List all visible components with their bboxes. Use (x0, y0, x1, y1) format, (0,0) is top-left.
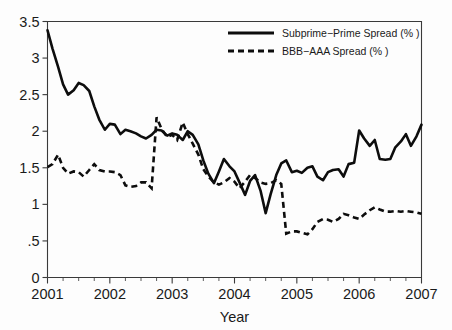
y-tick-label: 3 (31, 50, 39, 66)
y-tick-label: 2.5 (19, 87, 39, 103)
y-tick-label: 2 (31, 123, 39, 139)
legend-label: Subprime−Prime Spread (% ) (282, 27, 419, 39)
y-tick-label: 1.5 (19, 160, 39, 176)
legend-label: BBB−AAA Spread (% ) (282, 45, 389, 57)
x-axis-ticks: 2001200220032004200520062007 (31, 278, 437, 302)
y-axis-ticks: 0.511.522.533.5 (19, 14, 47, 286)
data-series-group (48, 30, 422, 234)
x-tick-label: 2007 (405, 286, 437, 302)
y-tick-label: .5 (27, 233, 39, 249)
series-line-2 (48, 117, 422, 234)
x-tick-label: 2002 (94, 286, 126, 302)
y-tick-label: 3.5 (19, 14, 39, 30)
x-tick-label: 2001 (31, 286, 63, 302)
y-tick-label: 0 (31, 270, 39, 286)
x-axis-title: Year (220, 309, 249, 325)
chart-figure: 0.511.522.533.5 200120022003200420052006… (0, 0, 452, 330)
chart-legend: Subprime−Prime Spread (% )BBB−AAA Spread… (228, 27, 419, 57)
y-tick-label: 1 (31, 196, 39, 212)
plot-frame (48, 22, 422, 278)
x-tick-label: 2006 (343, 286, 375, 302)
x-tick-label: 2005 (281, 286, 313, 302)
x-tick-label: 2004 (218, 286, 250, 302)
series-line-1 (48, 30, 422, 213)
line-chart: 0.511.522.533.5 200120022003200420052006… (0, 0, 452, 330)
x-tick-label: 2003 (156, 286, 188, 302)
